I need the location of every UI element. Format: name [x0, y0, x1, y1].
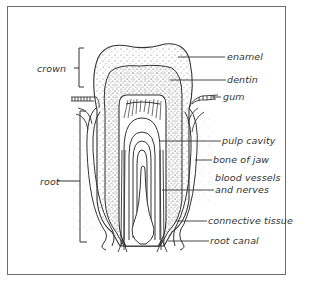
label-gum: gum [223, 91, 245, 102]
label-root: root [40, 176, 60, 187]
label-dentin: dentin [227, 74, 258, 85]
label-and-nerves: and nerves [215, 184, 269, 195]
label-connective-tissue: connective tissue [208, 215, 293, 226]
label-blood-vessels: blood vessels [215, 172, 280, 183]
label-root-canal: root canal [210, 235, 259, 246]
label-bone-of-jaw: bone of jaw [213, 154, 269, 165]
label-enamel: enamel [227, 51, 263, 62]
label-pulp-cavity: pulp cavity [222, 135, 276, 146]
label-crown: crown [37, 63, 66, 74]
crown-bracket [74, 48, 84, 87]
